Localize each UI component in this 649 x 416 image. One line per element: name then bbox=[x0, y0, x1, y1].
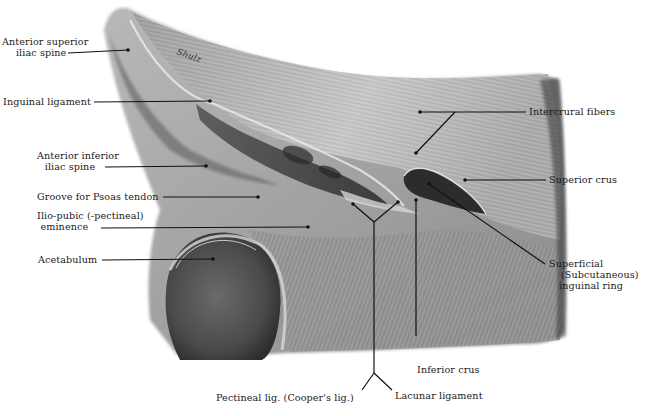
label-lacunar-ligament: Lacunar ligament bbox=[395, 390, 483, 401]
label-line: iliac spine bbox=[2, 47, 88, 58]
label-line: (Subcutaneous) bbox=[549, 269, 639, 280]
label-inferior-crus: Inferior crus bbox=[417, 364, 480, 375]
label-anterior-inferior-iliac-spine: Anterior inferior iliac spine bbox=[37, 150, 119, 172]
anatomy-illustration: Shulz bbox=[0, 0, 649, 416]
label-line: Anterior superior bbox=[2, 36, 88, 47]
label-groove-psoas-tendon: Groove for Psoas tendon bbox=[37, 191, 159, 202]
label-inguinal-ligament: Inguinal ligament bbox=[3, 96, 91, 107]
label-line: inguinal ring bbox=[549, 280, 639, 291]
label-pectineal-ligament: Pectineal lig. (Cooper's lig.) bbox=[216, 392, 354, 403]
label-intercrural-fibers: Intercrural fibers bbox=[529, 106, 615, 117]
label-superior-crus: Superior crus bbox=[549, 174, 617, 185]
label-line: eminence bbox=[37, 221, 144, 232]
label-superficial-inguinal-ring: Superficial (Subcutaneous) inguinal ring bbox=[549, 258, 639, 291]
label-line: Ilio-pubic (-pectineal) bbox=[37, 210, 144, 221]
label-acetabulum: Acetabulum bbox=[38, 254, 97, 265]
label-anterior-superior-iliac-spine: Anterior superior iliac spine bbox=[2, 36, 88, 58]
label-iliopubic-eminence: Ilio-pubic (-pectineal) eminence bbox=[37, 210, 144, 232]
label-line: Anterior inferior bbox=[37, 150, 119, 161]
label-line: iliac spine bbox=[37, 161, 119, 172]
label-line: Superficial bbox=[549, 258, 639, 269]
